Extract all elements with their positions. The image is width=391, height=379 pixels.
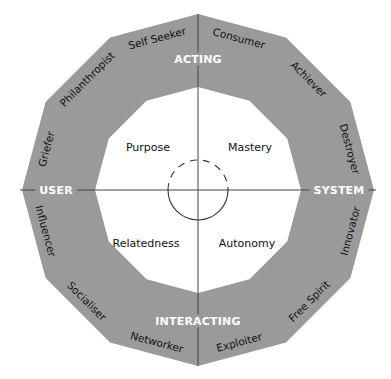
axis-label-interacting: INTERACTING xyxy=(151,315,244,328)
axis-label-system: SYSTEM xyxy=(310,184,369,197)
quadrant-mastery: Mastery xyxy=(228,141,272,154)
axis-label-user: USER xyxy=(35,184,77,197)
quadrant-autonomy: Autonomy xyxy=(219,237,275,250)
axis-label-acting: ACTING xyxy=(170,53,226,66)
quadrant-relatedness: Relatedness xyxy=(113,237,180,250)
quadrant-purpose: Purpose xyxy=(126,141,170,154)
hexad-diagram: ACTING INTERACTING USER SYSTEM Purpose M… xyxy=(0,0,391,379)
